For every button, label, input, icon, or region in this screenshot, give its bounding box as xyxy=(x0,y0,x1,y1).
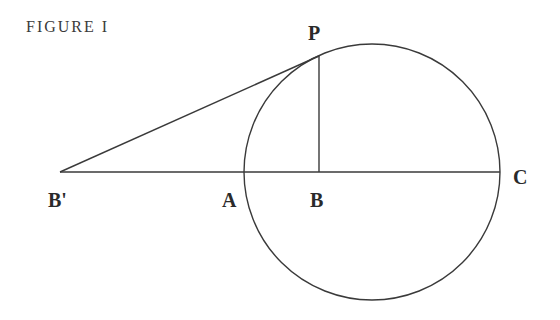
label-c: C xyxy=(513,166,527,188)
label-b: B xyxy=(310,189,323,211)
label-b-prime: B' xyxy=(48,189,67,211)
label-p: P xyxy=(308,22,320,44)
geometry-diagram: P B' A B C xyxy=(0,0,560,320)
label-a: A xyxy=(222,189,237,211)
tangent-bprime-p xyxy=(60,56,319,172)
